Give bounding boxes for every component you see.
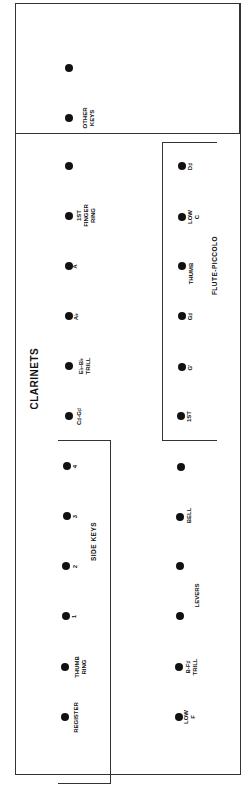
key-dot-d-sharp	[178, 162, 186, 170]
key-dot	[65, 162, 73, 170]
key-label: 1ST FINGER RING	[76, 201, 97, 231]
side-keys-label: SIDE KEYS	[90, 512, 97, 572]
key-label: E♭-B♭ TRILL	[78, 352, 92, 380]
key-label: G'	[187, 362, 194, 374]
key-dot-thumb	[178, 262, 186, 270]
key-label: LOW F	[183, 707, 197, 727]
key-dot-bell	[176, 513, 184, 521]
key-label: 1	[71, 613, 78, 621]
key-dot-side-2	[62, 562, 70, 570]
key-dot-other-keys	[65, 114, 73, 122]
key-label: 4	[72, 463, 79, 471]
key-label: D♯	[187, 161, 194, 173]
flute-piccolo-label: FLUTE-PICCOLO	[211, 226, 218, 306]
key-dot	[177, 463, 185, 471]
key-label: A	[72, 261, 79, 273]
key-label: REGISTER	[73, 698, 80, 738]
key-dot-b-f-sharp-trill	[175, 663, 183, 671]
key-dot-eb-bb-trill	[65, 362, 73, 370]
key-dot-1st	[177, 412, 185, 420]
key-label: G♯	[187, 311, 194, 323]
key-dot-g-sharp	[178, 312, 186, 320]
diagram-title: CLARINETS	[29, 350, 40, 410]
key-dot	[65, 64, 73, 72]
key-dot-thumb-ring	[61, 663, 69, 671]
key-label: C♯-G♯	[76, 404, 83, 430]
key-label: THUMB	[188, 259, 195, 289]
key-dot	[176, 612, 184, 620]
key-dot-g-prime	[178, 363, 186, 371]
key-label: BELL	[186, 505, 193, 527]
flute-piccolo-box	[162, 142, 217, 441]
key-label: LEVERS	[194, 581, 201, 611]
key-label: B-F♯ TRILL	[185, 654, 199, 680]
key-label: 2	[72, 563, 79, 571]
key-dot-side-3	[63, 512, 71, 520]
key-dot-1st-finger-ring	[65, 212, 73, 220]
key-dot-levers	[176, 562, 184, 570]
key-label: 3	[72, 513, 79, 521]
key-dot-side-1	[62, 612, 70, 620]
key-label: 1ST	[186, 409, 193, 425]
key-dot-low-c	[178, 213, 186, 221]
key-label: OTHER KEYS	[82, 103, 96, 133]
key-label: A♭	[73, 310, 80, 324]
key-dot-side-4	[63, 462, 71, 470]
key-dot-c-sharp-g-sharp	[65, 412, 73, 420]
key-label: LOW C	[187, 207, 201, 227]
key-label: THUMB RING	[74, 652, 88, 682]
key-dot-low-f	[175, 713, 183, 721]
key-dot-register	[61, 713, 69, 721]
